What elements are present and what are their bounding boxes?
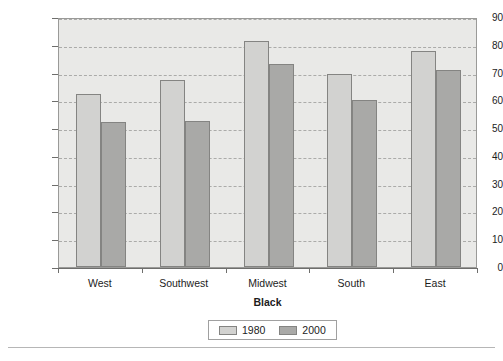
x-tick-label-west: West: [55, 277, 145, 289]
y-tick-label: 70: [479, 69, 503, 79]
legend-swatch-1980: [219, 326, 237, 335]
bar-south-1980: [327, 74, 352, 267]
x-tick-mark: [477, 268, 478, 273]
bar-east-2000: [436, 70, 461, 268]
x-tick-mark: [226, 268, 227, 273]
x-tick-label-south: South: [306, 277, 396, 289]
y-tick-label: 60: [479, 96, 503, 106]
bar-east-1980: [411, 51, 436, 267]
bottom-divider: [8, 347, 495, 348]
x-tick-mark: [309, 268, 310, 273]
y-tick-label: 90: [479, 13, 503, 23]
bar-midwest-1980: [244, 41, 269, 267]
bar-southwest-2000: [185, 121, 210, 267]
x-tick-label-midwest: Midwest: [223, 277, 313, 289]
y-tick-label: 30: [479, 180, 503, 190]
y-tick-label: 40: [479, 152, 503, 162]
y-tick-label: 10: [479, 235, 503, 245]
y-tick-label: 50: [479, 124, 503, 134]
x-axis-line: [58, 268, 477, 269]
x-tick-label-east: East: [390, 277, 480, 289]
x-tick-mark: [393, 268, 394, 273]
plot-area: [58, 18, 477, 268]
x-tick-mark: [142, 268, 143, 273]
chart-figure: Average Regional Dissimilarity Index 010…: [0, 0, 503, 361]
bar-southwest-1980: [160, 80, 185, 268]
legend-label-2000: 2000: [302, 325, 325, 336]
x-axis-title: Black: [58, 296, 477, 308]
bar-south-2000: [352, 100, 377, 267]
gridline: [59, 19, 476, 20]
bar-west-1980: [76, 94, 101, 267]
legend-item-2000: 2000: [279, 325, 325, 336]
chart-legend: 19802000: [208, 320, 337, 340]
legend-label-1980: 1980: [242, 325, 265, 336]
legend-swatch-2000: [279, 326, 297, 335]
x-tick-label-southwest: Southwest: [139, 277, 229, 289]
y-tick-label: 80: [479, 41, 503, 51]
x-tick-mark: [58, 268, 59, 273]
bar-west-2000: [101, 122, 126, 267]
y-tick-label: 20: [479, 207, 503, 217]
bar-midwest-2000: [269, 64, 294, 267]
legend-item-1980: 1980: [219, 325, 265, 336]
y-tick-label: 0: [479, 263, 503, 273]
